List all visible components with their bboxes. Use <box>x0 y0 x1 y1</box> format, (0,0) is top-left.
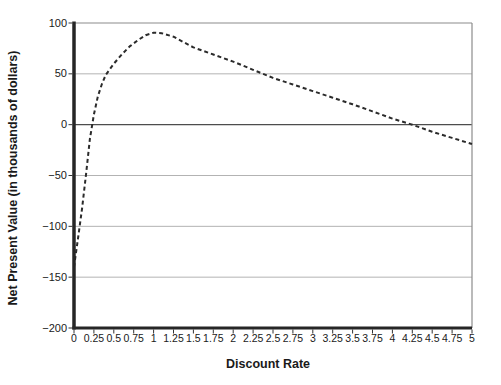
npv-chart: Net Present Value (in thousands of dolla… <box>0 0 501 385</box>
x-tick-label: 0.25 <box>84 332 104 344</box>
y-tick-label: −150 <box>42 271 67 284</box>
y-tick-label: −50 <box>48 169 67 182</box>
y-tick-label: 50 <box>55 67 67 80</box>
x-tick-label: 2.5 <box>266 332 281 344</box>
x-tick-label: 1.25 <box>163 332 183 344</box>
y-tick-label: 100 <box>49 17 67 30</box>
y-tick-label: −100 <box>42 220 67 233</box>
x-tick-label: 3.75 <box>362 332 382 344</box>
x-tick-label: 4.75 <box>442 332 462 344</box>
x-tick-label: 2 <box>230 332 236 344</box>
x-tick-label: 4 <box>389 332 395 344</box>
x-tick-label: 5 <box>469 332 475 344</box>
y-tick-label: 0 <box>61 118 67 131</box>
x-tick-label: 0.5 <box>106 332 121 344</box>
x-axis-title: Discount Rate <box>226 357 310 371</box>
x-tick-label: 4.5 <box>425 332 440 344</box>
x-tick-label: 3.25 <box>322 332 342 344</box>
plot-area <box>0 0 501 385</box>
y-axis-title: Net Present Value (in thousands of dolla… <box>6 51 20 306</box>
x-tick-label: 0 <box>71 332 77 344</box>
x-tick-label: 2.25 <box>243 332 263 344</box>
x-tick-label: 3.5 <box>345 332 360 344</box>
x-tick-label: 4.25 <box>402 332 422 344</box>
y-tick-label: −200 <box>42 322 67 335</box>
x-tick-label: 1.75 <box>203 332 223 344</box>
x-tick-label: 2.75 <box>283 332 303 344</box>
x-tick-label: 3 <box>310 332 316 344</box>
x-tick-label: 0.75 <box>123 332 143 344</box>
x-tick-label: 1 <box>151 332 157 344</box>
npv-curve <box>74 33 472 267</box>
x-tick-label: 1.5 <box>186 332 201 344</box>
